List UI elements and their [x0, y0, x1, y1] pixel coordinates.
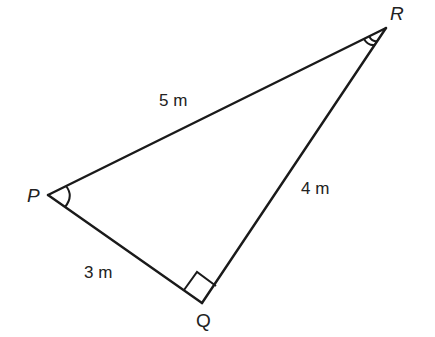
- side-qr: [202, 28, 386, 303]
- vertex-label-r: R: [390, 3, 404, 24]
- triangle-diagram: R P Q 5 m 4 m 3 m: [0, 0, 435, 337]
- side-label-pr: 5 m: [159, 91, 187, 110]
- side-pr: [48, 28, 386, 195]
- side-label-pq: 3 m: [84, 263, 112, 282]
- side-pq: [48, 195, 202, 303]
- vertex-label-p: P: [27, 185, 40, 206]
- vertex-label-q: Q: [196, 310, 211, 331]
- side-label-qr: 4 m: [301, 179, 329, 198]
- angle-arc-r-inner: [369, 36, 377, 41]
- angle-arc-p: [65, 186, 70, 207]
